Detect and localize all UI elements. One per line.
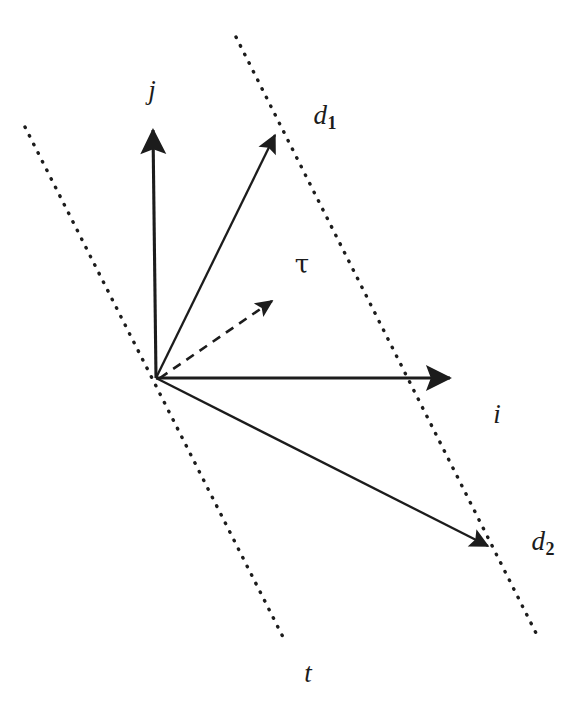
d2-label-subscript: 2 xyxy=(546,539,555,559)
t-dotted-line xyxy=(25,127,286,643)
j-axis-vector xyxy=(153,130,156,378)
tau-label: τ xyxy=(295,251,309,277)
tau-vector xyxy=(160,301,272,378)
j-axis-label: j xyxy=(148,77,156,104)
d1-label: d1 xyxy=(314,102,337,132)
right-dotted-line xyxy=(236,37,539,639)
d2-label-base: d xyxy=(532,526,546,556)
d2-vector xyxy=(156,378,488,546)
d1-label-subscript: 1 xyxy=(328,113,337,133)
d2-label: d2 xyxy=(532,528,555,558)
d1-vector xyxy=(156,135,275,378)
diagram-canvas xyxy=(0,0,585,723)
vector-diagram-figure: j i d1 d2 τ t xyxy=(0,0,585,723)
t-line-label: t xyxy=(304,660,312,687)
i-axis-label: i xyxy=(493,401,501,428)
d1-label-base: d xyxy=(314,100,328,130)
